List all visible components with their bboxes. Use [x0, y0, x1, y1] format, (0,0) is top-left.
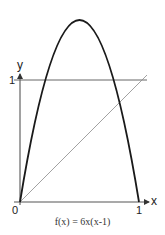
logistic-map-figure: y 1 0 1 x f(x) = 6x(x-1) — [0, 0, 165, 235]
plot-canvas — [0, 0, 165, 235]
parabola-curve — [20, 20, 139, 202]
origin-label: 0 — [12, 205, 18, 216]
x-axis-label: x — [151, 195, 157, 207]
x-tick-label-1: 1 — [136, 205, 142, 216]
function-caption: f(x) = 6x(x-1) — [0, 216, 165, 227]
y-axis-label: y — [17, 59, 23, 71]
y-tick-label-1: 1 — [9, 75, 15, 86]
